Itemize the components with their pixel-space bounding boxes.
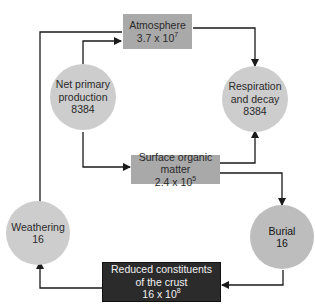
respiration-label-2: and decay: [231, 93, 279, 106]
arrow-crust-to-weathering: [40, 262, 102, 288]
surface-label: Surface organic matter: [131, 151, 220, 176]
arrow-surface-to-burial: [220, 173, 282, 205]
arrow-atmosphere-to-respiration: [193, 28, 255, 66]
reduced-crust-node: Reduced constituents of the crust 16 x 1…: [102, 262, 221, 302]
arrow-surface-to-respiration: [220, 131, 255, 163]
atmosphere-node: Atmosphere 3.7 x 107: [123, 14, 192, 49]
net-primary-production-node: Net primary production 8384: [50, 64, 116, 130]
respiration-label-1: Respiration: [228, 80, 281, 93]
weathering-label: Weathering: [11, 221, 65, 234]
crust-label-1: Reduced constituents: [111, 263, 212, 276]
arrow-burial-to-crust: [222, 270, 283, 285]
npp-value: 8384: [71, 103, 94, 116]
arrow-npp-to-atmosphere: [83, 41, 121, 64]
surface-organic-matter-node: Surface organic matter 2.4 x 105: [131, 155, 220, 184]
weathering-node: Weathering 16: [6, 201, 70, 265]
arrow-npp-to-surface: [83, 132, 130, 167]
weathering-value: 16: [32, 233, 44, 246]
burial-value: 16: [276, 237, 288, 250]
respiration-decay-node: Respiration and decay 8384: [222, 66, 288, 132]
npp-label-1: Net primary: [56, 78, 110, 91]
atmosphere-value: 3.7 x 107: [137, 32, 178, 45]
crust-value: 16 x 108: [142, 288, 180, 301]
respiration-value: 8384: [243, 105, 266, 118]
burial-node: Burial 16: [250, 205, 314, 269]
burial-label: Burial: [269, 225, 296, 238]
surface-value: 2.4 x 105: [155, 176, 196, 189]
npp-label-2: production: [58, 91, 107, 104]
